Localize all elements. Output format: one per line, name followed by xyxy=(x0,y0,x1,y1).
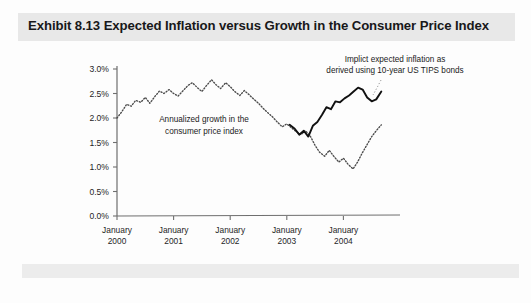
series-line-tips xyxy=(290,88,382,137)
x-axis-tick-label: 2003 xyxy=(277,236,296,246)
annotation-cpi-line2: consumer price index xyxy=(165,127,243,136)
x-axis-tick-label: January xyxy=(215,225,246,235)
x-axis-tick-label: 2004 xyxy=(334,236,353,246)
annotation-tips-line1: Implict expected inflation as xyxy=(345,55,446,64)
y-axis-tick-label: 2.0% xyxy=(89,113,109,123)
x-axis-tick-label: January xyxy=(102,225,133,235)
y-axis-tick-label: 0.5% xyxy=(89,187,109,197)
exhibit-figure: Exhibit 8.13 Expected Inflation versus G… xyxy=(0,0,531,303)
x-axis-tick-label: 2000 xyxy=(108,236,127,246)
y-axis-tick-label: 0.0% xyxy=(89,211,109,221)
y-axis-labels: 0.0%0.5%1.0%1.5%2.0%2.5%3.0% xyxy=(89,64,109,221)
chart-canvas: 0.0%0.5%1.0%1.5%2.0%2.5%3.0% January2000… xyxy=(0,0,531,303)
x-axis-ticks xyxy=(117,216,343,220)
annotation-cpi-line1: Annualized growth in the xyxy=(159,115,249,124)
x-axis-line xyxy=(117,215,400,216)
x-axis-tick-label: 2002 xyxy=(221,236,240,246)
y-axis-tick-label: 1.5% xyxy=(89,138,109,148)
x-axis-tick-label: 2001 xyxy=(164,236,183,246)
y-axis-tick-label: 3.0% xyxy=(89,64,109,74)
series-line-cpi xyxy=(117,80,381,169)
x-axis-tick-label: January xyxy=(329,225,360,235)
x-axis-tick-label: January xyxy=(159,225,190,235)
y-axis-tick-label: 2.5% xyxy=(89,89,109,99)
x-axis-labels: January2000January2001January2002January… xyxy=(102,225,359,246)
x-axis-tick-label: January xyxy=(272,225,303,235)
annotation-tips-line2: derived using 10-year US TIPS bonds xyxy=(326,66,463,75)
y-axis-tick-label: 1.0% xyxy=(89,162,109,172)
